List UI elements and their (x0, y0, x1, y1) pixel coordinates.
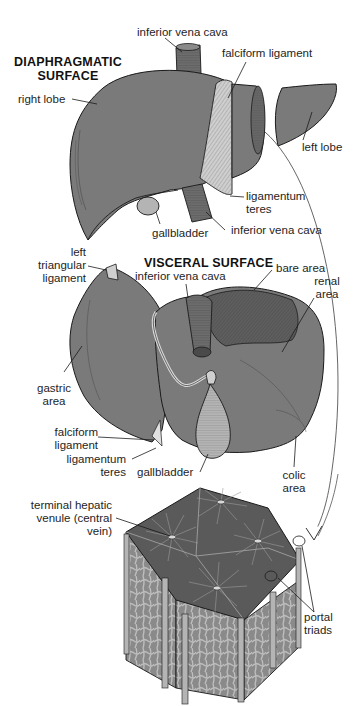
diaphragmatic-title-line2: SURFACE (8, 69, 128, 83)
label-gastric-area: gastric area (36, 382, 72, 408)
label-falciform-visceral-line1: falciform (44, 426, 98, 439)
label-falciform-visceral: falciform ligament (44, 426, 98, 452)
diaphragmatic-title-line1: DIAPHRAGMATIC (8, 55, 128, 69)
label-left-lobe: left lobe (302, 141, 342, 154)
label-ligamentum-teres-visceral: ligamentum teres (60, 453, 126, 479)
label-left-triangular-line1: left (34, 246, 86, 259)
left-lobe-visceral (70, 268, 169, 442)
label-lig-teres-visceral-line1: ligamentum (60, 453, 126, 466)
left-lobe-shape (275, 84, 336, 146)
label-renal-line1: renal (310, 275, 344, 288)
visceral-title: VISCERAL SURFACE (144, 256, 266, 270)
label-falciform-ligament: falciform ligament (222, 47, 312, 60)
label-bare-area: bare area (276, 262, 325, 275)
label-renal-line2: area (310, 288, 344, 301)
label-colic-line1: colic (278, 469, 310, 482)
central-vein-3 (254, 539, 262, 543)
ivc-bottom-vessel (182, 184, 212, 222)
central-vein-2 (217, 500, 225, 504)
label-colic-line2: area (278, 482, 310, 495)
label-portal-line1: portal (304, 611, 333, 624)
label-central-vein-line2: venule (central (24, 512, 112, 525)
diaphragmatic-title: DIAPHRAGMATIC SURFACE (8, 55, 128, 83)
label-gastric-line1: gastric (36, 382, 72, 395)
lobule-block (124, 488, 305, 704)
label-ivc-bottom: inferior vena cava (231, 224, 322, 237)
label-renal-area: renal area (310, 275, 344, 301)
label-right-lobe: right lobe (18, 93, 65, 106)
label-colic-area: colic area (278, 469, 310, 495)
label-ligamentum-teres-top: ligamentum teres (246, 190, 305, 216)
label-gallbladder-visceral: gallbladder (137, 466, 193, 479)
label-ligamentum-teres-top-line2: teres (246, 203, 305, 216)
label-central-vein-line1: terminal hepatic (24, 499, 112, 512)
label-gastric-line2: area (36, 395, 72, 408)
label-portal-triads: portal triads (304, 611, 333, 637)
label-portal-line2: triads (304, 624, 333, 637)
label-central-vein-line3: vein) (24, 525, 112, 538)
label-falciform-visceral-line2: ligament (44, 439, 98, 452)
label-left-triangular-line2: triangular (34, 259, 86, 272)
portal-triad-circle-1 (293, 536, 305, 546)
label-lig-teres-visceral-line2: teres (60, 466, 126, 479)
visceral-liver (70, 264, 324, 458)
label-central-vein: terminal hepatic venule (central vein) (24, 499, 112, 538)
label-left-triangular-ligament: left triangular ligament (34, 246, 86, 285)
label-ivc-top: inferior vena cava (137, 26, 228, 39)
label-left-triangular-line3: ligament (34, 272, 86, 285)
label-gallbladder-top: gallbladder (152, 227, 208, 240)
label-ivc-visceral: inferior vena cava (135, 270, 226, 283)
label-ligamentum-teres-top-line1: ligamentum (246, 190, 305, 203)
